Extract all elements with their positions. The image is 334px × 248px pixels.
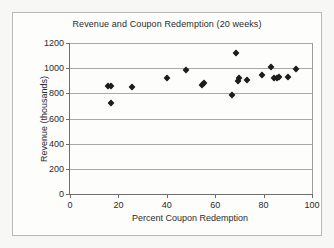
x-axis-tick-label: 0 (67, 200, 72, 210)
x-axis-tick (118, 194, 119, 198)
y-axis-tick-label: 1200 (44, 38, 64, 48)
x-axis-title: Percent Coupon Redemption (69, 213, 311, 223)
data-point (128, 83, 135, 90)
plot-right-edge (312, 43, 313, 194)
data-point (284, 73, 291, 80)
data-point (163, 75, 170, 82)
gridline-horizontal (70, 144, 312, 145)
x-axis-tick (312, 194, 313, 198)
y-axis-tick (66, 43, 70, 44)
chart-title: Revenue and Coupon Redemption (20 weeks) (13, 19, 321, 29)
x-axis-tick-label: 60 (210, 200, 220, 210)
gridline-horizontal (70, 119, 312, 120)
x-axis-tick (70, 194, 71, 198)
y-axis-tick-label: 0 (59, 189, 64, 199)
chart-frame: Revenue and Coupon Redemption (20 weeks)… (12, 12, 322, 236)
gridline-horizontal (70, 68, 312, 69)
y-axis-tick (66, 119, 70, 120)
plot-area: 020040060080010001200020406080100 (69, 43, 312, 195)
screenshot-root: Revenue and Coupon Redemption (20 weeks)… (0, 0, 334, 248)
y-axis-tick (66, 144, 70, 145)
y-axis-tick (66, 93, 70, 94)
gridline-horizontal (70, 169, 312, 170)
data-point (259, 71, 266, 78)
y-axis-tick (66, 169, 70, 170)
x-axis-tick-label: 40 (162, 200, 172, 210)
data-point (232, 50, 239, 57)
data-point (267, 63, 274, 70)
y-axis-title-wrapper: Revenue (thousands) (19, 43, 35, 194)
y-axis-tick-label: 1000 (44, 63, 64, 73)
y-axis-tick-label: 600 (49, 114, 64, 124)
data-point (293, 66, 300, 73)
data-point (108, 100, 115, 107)
y-axis-tick-label: 400 (49, 139, 64, 149)
x-axis-tick (167, 194, 168, 198)
gridline-horizontal (70, 43, 312, 44)
x-axis-tick (264, 194, 265, 198)
data-point (243, 77, 250, 84)
gridline-horizontal (70, 93, 312, 94)
y-axis-tick-label: 200 (49, 164, 64, 174)
x-axis-tick-label: 20 (113, 200, 123, 210)
x-axis-tick-label: 80 (259, 200, 269, 210)
x-axis-tick-label: 100 (304, 200, 319, 210)
x-axis-tick (215, 194, 216, 198)
y-axis-tick (66, 68, 70, 69)
y-axis-tick-label: 800 (49, 88, 64, 98)
